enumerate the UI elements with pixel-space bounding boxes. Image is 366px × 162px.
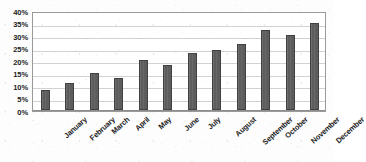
bar (286, 35, 295, 110)
bar (90, 73, 99, 111)
bar (41, 90, 50, 110)
x-axis-tick-label: June (182, 115, 201, 133)
y-axis-tick-label: 40% (13, 8, 28, 17)
bar-series (33, 13, 325, 111)
bar (139, 60, 148, 110)
y-axis-tick-label: 25% (13, 45, 28, 54)
y-axis-tick-label: 0% (17, 108, 28, 117)
y-axis-tick-label: 30% (13, 33, 28, 42)
bar (261, 30, 270, 110)
bar (163, 65, 172, 110)
y-axis-tick-label: 20% (13, 58, 28, 67)
y-axis-tick-label: 10% (13, 83, 28, 92)
y-axis-tick-label: 15% (13, 70, 28, 79)
plot-area (32, 12, 326, 112)
x-axis-tick-label: January (62, 115, 89, 140)
bar (65, 83, 74, 111)
y-axis: 0%5%10%15%20%25%30%35%40% (0, 12, 30, 112)
bar (188, 53, 197, 111)
x-axis-tick-label: August (233, 115, 258, 138)
y-axis-tick-label: 35% (13, 20, 28, 29)
axis-baseline (33, 110, 325, 111)
x-axis-tick-label: July (206, 115, 223, 131)
x-axis: JanuaryFebruaryMarchAprilMayJuneJulyAugu… (32, 113, 326, 162)
x-axis-tick-label: April (133, 115, 151, 133)
y-axis-tick-label: 5% (17, 95, 28, 104)
bar (114, 78, 123, 111)
x-axis-tick-label: May (157, 115, 174, 131)
bar (237, 44, 246, 110)
bar (310, 23, 319, 111)
bar (212, 50, 221, 110)
